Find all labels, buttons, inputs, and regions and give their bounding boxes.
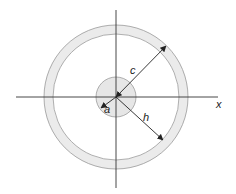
label-c: c (130, 64, 136, 76)
label-h: h (143, 111, 149, 123)
diagram-canvas: c h a x (0, 0, 236, 194)
dimension-c-arrow (116, 46, 166, 97)
dimension-h-arrow (116, 97, 163, 140)
label-x-axis: x (215, 98, 222, 110)
label-a: a (104, 103, 110, 115)
